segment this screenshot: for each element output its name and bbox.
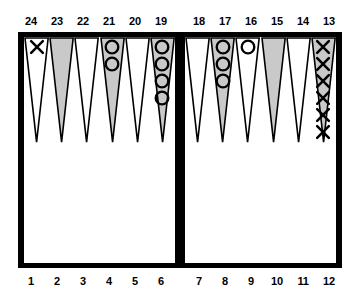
point-16[interactable] — [235, 37, 260, 263]
point-label-3: 3 — [70, 272, 96, 290]
point-label-11: 11 — [290, 272, 316, 290]
point-column-right-2 — [235, 37, 260, 263]
point-triangle-24 — [24, 37, 49, 143]
point-13[interactable] — [311, 37, 336, 263]
point-20[interactable] — [125, 37, 150, 263]
point-15[interactable] — [261, 37, 286, 263]
point-column-left-5 — [150, 37, 175, 263]
backgammon-board-figure: 24 23 22 21 20 19 18 17 16 15 14 13 1 2 — [0, 0, 353, 300]
point-label-1: 1 — [18, 272, 44, 290]
point-label-9: 9 — [238, 272, 264, 290]
point-label-17: 17 — [212, 12, 238, 30]
point-label-5: 5 — [122, 272, 148, 290]
point-triangle-13 — [311, 37, 336, 143]
point-triangle-23 — [49, 37, 74, 143]
top-label-bar-gap — [174, 12, 186, 30]
point-triangle-20 — [125, 37, 150, 143]
point-label-7: 7 — [186, 272, 212, 290]
point-17[interactable] — [210, 37, 235, 263]
point-14[interactable] — [286, 37, 311, 263]
point-label-16: 16 — [238, 12, 264, 30]
point-label-14: 14 — [290, 12, 316, 30]
point-label-20: 20 — [122, 12, 148, 30]
bottom-point-labels: 1 2 3 4 5 6 7 8 9 10 11 12 — [18, 272, 342, 290]
point-column-right-4 — [286, 37, 311, 263]
point-label-21: 21 — [96, 12, 122, 30]
board-bar — [175, 37, 185, 263]
point-triangle-21 — [100, 37, 125, 143]
point-column-right-3 — [261, 37, 286, 263]
point-triangle-22 — [74, 37, 99, 143]
point-23[interactable] — [49, 37, 74, 263]
point-label-23: 23 — [44, 12, 70, 30]
point-label-24: 24 — [18, 12, 44, 30]
point-triangle-18 — [185, 37, 210, 143]
board-half-right — [185, 37, 336, 263]
point-column-left-4 — [125, 37, 150, 263]
point-column-left-0 — [24, 37, 49, 263]
point-label-2: 2 — [44, 272, 70, 290]
point-label-19: 19 — [148, 12, 174, 30]
bottom-left-labels: 1 2 3 4 5 6 — [18, 272, 174, 290]
point-19[interactable] — [150, 37, 175, 263]
top-point-labels: 24 23 22 21 20 19 18 17 16 15 14 13 — [18, 12, 342, 30]
point-triangle-14 — [286, 37, 311, 143]
point-triangle-17 — [210, 37, 235, 143]
point-triangle-16 — [235, 37, 260, 143]
point-column-left-2 — [74, 37, 99, 263]
point-label-13: 13 — [316, 12, 342, 30]
point-triangle-15 — [261, 37, 286, 143]
point-label-18: 18 — [186, 12, 212, 30]
point-column-right-0 — [185, 37, 210, 263]
point-label-4: 4 — [96, 272, 122, 290]
top-right-labels: 18 17 16 15 14 13 — [186, 12, 342, 30]
point-column-right-5 — [311, 37, 336, 263]
point-21[interactable] — [100, 37, 125, 263]
top-left-labels: 24 23 22 21 20 19 — [18, 12, 174, 30]
point-label-12: 12 — [316, 272, 342, 290]
board-playing-field — [24, 37, 336, 263]
point-label-10: 10 — [264, 272, 290, 290]
board-frame — [18, 32, 342, 268]
point-22[interactable] — [74, 37, 99, 263]
point-label-22: 22 — [70, 12, 96, 30]
point-label-8: 8 — [212, 272, 238, 290]
point-triangle-19 — [150, 37, 175, 143]
point-label-15: 15 — [264, 12, 290, 30]
board-half-left — [24, 37, 175, 263]
point-column-right-1 — [210, 37, 235, 263]
point-label-6: 6 — [148, 272, 174, 290]
point-column-left-1 — [49, 37, 74, 263]
bottom-right-labels: 7 8 9 10 11 12 — [186, 272, 342, 290]
point-18[interactable] — [185, 37, 210, 263]
point-column-left-3 — [100, 37, 125, 263]
point-24[interactable] — [24, 37, 49, 263]
bottom-label-bar-gap — [174, 272, 186, 290]
